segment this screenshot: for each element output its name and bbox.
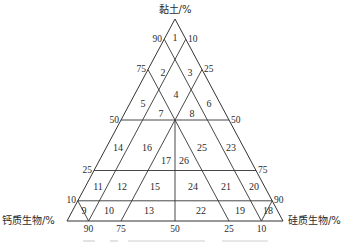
region-1: 1	[173, 32, 178, 43]
region-13: 13	[144, 205, 154, 216]
tick-left-90: 90	[153, 34, 163, 44]
tick-bottom-25: 25	[224, 224, 234, 234]
tick-right-25: 25	[204, 64, 214, 74]
region-8: 8	[190, 108, 195, 119]
tick-left-10: 10	[67, 195, 77, 205]
region-11: 11	[93, 181, 103, 192]
region-20: 20	[249, 181, 259, 192]
region-15: 15	[150, 181, 160, 192]
tick-right-90: 90	[274, 195, 284, 205]
axis-title-siliceous: 硅质生物/%	[288, 214, 341, 226]
region-3: 3	[188, 67, 193, 78]
region-2: 2	[161, 67, 166, 78]
region-6: 6	[207, 98, 212, 109]
tick-bottom-90: 90	[84, 224, 94, 234]
region-4: 4	[174, 89, 179, 100]
sil-25-line	[121, 70, 202, 222]
tick-bottom-50: 50	[170, 224, 180, 234]
region-9: 9	[82, 205, 87, 216]
tick-left-50: 50	[110, 115, 120, 125]
calc-75-line	[148, 70, 229, 222]
region-10: 10	[104, 205, 114, 216]
tick-bottom-75: 75	[116, 224, 126, 234]
region-24: 24	[188, 181, 198, 192]
region-21: 21	[221, 181, 231, 192]
axis-title-calcareous: 钙质生物/%	[2, 214, 55, 226]
region-14: 14	[113, 142, 123, 153]
region-22: 22	[196, 205, 206, 216]
region-12: 12	[117, 181, 127, 192]
tick-right-10: 10	[188, 34, 198, 44]
region-5: 5	[141, 98, 146, 109]
tick-left-75: 75	[137, 64, 147, 74]
region-17: 17	[161, 155, 171, 166]
axis-title-clay: 黏土/%	[159, 3, 192, 15]
tick-left-25: 25	[83, 165, 93, 175]
tick-right-50: 50	[231, 115, 241, 125]
region-26: 26	[179, 155, 189, 166]
region-16: 16	[142, 142, 152, 153]
region-23: 23	[226, 142, 236, 153]
region-25: 25	[197, 142, 207, 153]
tick-right-75: 75	[258, 165, 268, 175]
region-19: 19	[235, 205, 245, 216]
ternary-diagram: 黏土/% 钙质生物/% 硅质生物/% 90 75 50 25 10 10 25 …	[0, 0, 351, 243]
tick-bottom-10: 10	[257, 224, 267, 234]
region-7: 7	[159, 108, 164, 119]
region-18: 18	[263, 205, 273, 216]
